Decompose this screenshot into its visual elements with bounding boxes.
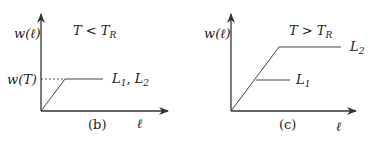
panel-b-y-axis-label: w(ℓ) [14, 27, 41, 40]
panel-c-caption: (c) [279, 118, 296, 131]
panel-c-curve-label-L2: L2 [350, 40, 364, 56]
panel-b-condition: T < TR [73, 24, 116, 40]
panel-c-curve-label-L1: L1 [296, 73, 310, 89]
panel-c-x-axis-label: ℓ [336, 120, 341, 133]
panel-b-curve-label: L1, L2 [112, 72, 149, 88]
panel-b-caption: (b) [88, 118, 106, 131]
panel-c-curve-L2 [231, 47, 341, 111]
panel-c-y-axis-label: w(ℓ) [204, 27, 231, 40]
panel-b-x-axis-label: ℓ [137, 117, 142, 130]
panel-b-y-tick-label: w(T) [7, 73, 37, 86]
panel-c-condition: T > TR [289, 24, 332, 40]
panel-b-curve [41, 79, 103, 111]
diagram-canvas [0, 0, 376, 141]
